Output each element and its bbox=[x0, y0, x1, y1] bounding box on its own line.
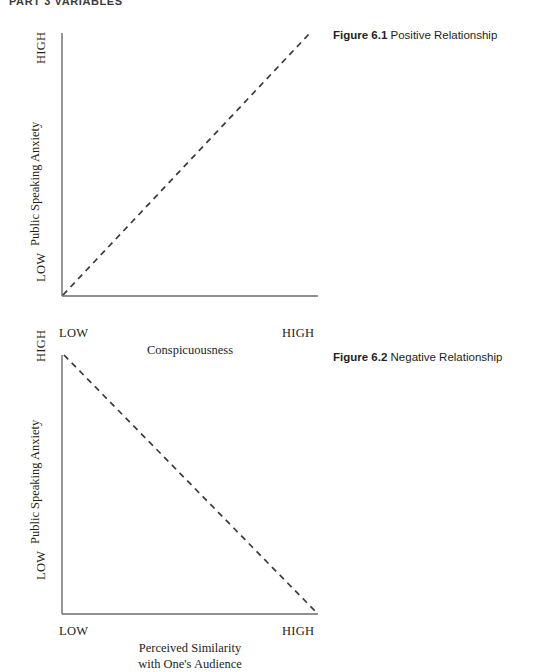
figure-1-caption: Figure 6.1 Positive Relationship bbox=[333, 28, 543, 42]
figure-2-y-axis-high-label: HIGH bbox=[34, 330, 49, 362]
figure-1-caption-title: Positive Relationship bbox=[391, 29, 498, 41]
figure-1-trend-line bbox=[63, 33, 310, 295]
figure-2-x-axis-title-line-1: Perceived Similarity bbox=[62, 640, 318, 656]
figure-2-caption: Figure 6.2 Negative Relationship bbox=[333, 350, 543, 364]
figure-2-y-axis-title: Public Speaking Anxiety bbox=[28, 420, 43, 544]
figure-2-x-axis-low-label: LOW bbox=[59, 624, 88, 639]
figure-2-plot bbox=[0, 346, 340, 646]
figure-2-chart-svg bbox=[0, 346, 340, 666]
figure-1-y-axis-high-label: HIGH bbox=[34, 32, 49, 64]
figure-1-y-axis-title: Public Speaking Anxiety bbox=[28, 122, 43, 246]
figure-2-y-axis-low-label: LOW bbox=[34, 551, 49, 580]
figure-2-x-axis-high-label: HIGH bbox=[282, 624, 314, 639]
figure-2-caption-title: Negative Relationship bbox=[391, 351, 503, 363]
figure-2-trend-line bbox=[64, 355, 318, 614]
figure-2-x-axis-title: Perceived Similarity with One's Audience bbox=[62, 640, 318, 672]
figure-1-plot bbox=[0, 24, 340, 324]
figure-1-y-axis-low-label: LOW bbox=[34, 253, 49, 282]
figure-1-chart-svg bbox=[0, 24, 340, 364]
figure-2-x-axis-title-line-2: with One's Audience bbox=[62, 656, 318, 672]
figure-1-x-axis-high-label: HIGH bbox=[282, 326, 314, 341]
figure-1-x-axis-low-label: LOW bbox=[59, 326, 88, 341]
running-head: PART 3 VARIABLES bbox=[9, 0, 123, 7]
figure-1-caption-number: Figure 6.1 bbox=[333, 29, 387, 41]
figure-2-caption-number: Figure 6.2 bbox=[333, 351, 387, 363]
